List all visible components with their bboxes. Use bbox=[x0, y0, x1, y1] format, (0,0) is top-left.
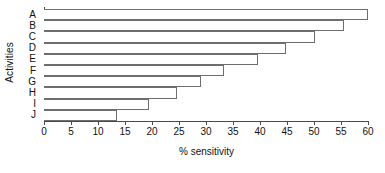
x-tickmark bbox=[44, 121, 45, 125]
y-tick-label-e: E bbox=[18, 54, 40, 65]
bar-f bbox=[44, 65, 224, 76]
bar-row bbox=[44, 87, 368, 98]
bar-i bbox=[44, 99, 149, 110]
x-tick-label: 10 bbox=[92, 127, 103, 137]
x-tick-label: 15 bbox=[119, 127, 130, 137]
y-tick-label-c: C bbox=[18, 31, 40, 42]
bar-row bbox=[44, 9, 368, 20]
bar-h bbox=[44, 87, 177, 98]
y-axis-title-label: Activities bbox=[4, 42, 15, 82]
bar-row bbox=[44, 65, 368, 76]
x-tick-label: 0 bbox=[41, 127, 47, 137]
x-axis-title: % sensitivity bbox=[44, 146, 369, 157]
x-tickmark bbox=[71, 121, 72, 125]
x-tick-label: 30 bbox=[200, 127, 211, 137]
y-tick-label-f: F bbox=[18, 65, 40, 76]
bar-c bbox=[44, 31, 315, 42]
x-tick-label: 25 bbox=[173, 127, 184, 137]
x-tick-label: 45 bbox=[281, 127, 292, 137]
x-tick-label: 60 bbox=[362, 127, 373, 137]
bar-row bbox=[44, 31, 368, 42]
sensitivity-bar-chart: Activities A B C D E F G H I J 051015202 bbox=[0, 0, 385, 173]
y-tick-label-g: G bbox=[18, 76, 40, 87]
x-tickmark bbox=[152, 121, 153, 125]
x-tickmark bbox=[260, 121, 261, 125]
x-tickmark bbox=[314, 121, 315, 125]
y-tick-label-a: A bbox=[18, 9, 40, 20]
y-tick-label-i: I bbox=[18, 99, 40, 110]
y-axis-title: Activities bbox=[0, 0, 18, 125]
x-tickmark bbox=[179, 121, 180, 125]
y-axis-tick-labels: A B C D E F G H I J bbox=[18, 9, 40, 121]
x-tick-label: 20 bbox=[146, 127, 157, 137]
x-tickmark bbox=[341, 121, 342, 125]
bar-d bbox=[44, 43, 286, 54]
plot-area bbox=[44, 9, 368, 121]
bar-row bbox=[44, 43, 368, 54]
bars-layer bbox=[44, 9, 368, 121]
x-tick-label: 40 bbox=[254, 127, 265, 137]
x-tick-label: 50 bbox=[308, 127, 319, 137]
x-tick-label: 5 bbox=[68, 127, 74, 137]
y-tick-label-b: B bbox=[18, 20, 40, 31]
x-tickmark bbox=[98, 121, 99, 125]
x-tickmark bbox=[233, 121, 234, 125]
bar-a bbox=[44, 9, 368, 20]
x-axis-tick-labels: 051015202530354045505560 bbox=[44, 127, 369, 141]
bar-row bbox=[44, 76, 368, 87]
y-tick-label-j: J bbox=[18, 110, 40, 121]
x-tick-label: 55 bbox=[335, 127, 346, 137]
bar-row bbox=[44, 110, 368, 121]
bar-e bbox=[44, 54, 258, 65]
bar-b bbox=[44, 20, 344, 31]
x-tickmark bbox=[125, 121, 126, 125]
bar-row bbox=[44, 99, 368, 110]
bar-g bbox=[44, 76, 201, 87]
x-tickmark bbox=[287, 121, 288, 125]
y-tick-label-d: D bbox=[18, 43, 40, 54]
x-tickmark bbox=[368, 121, 369, 125]
x-tick-label: 35 bbox=[227, 127, 238, 137]
bar-row bbox=[44, 54, 368, 65]
y-tick-label-h: H bbox=[18, 87, 40, 98]
x-tickmark bbox=[206, 121, 207, 125]
bar-row bbox=[44, 20, 368, 31]
bar-j bbox=[44, 110, 117, 121]
